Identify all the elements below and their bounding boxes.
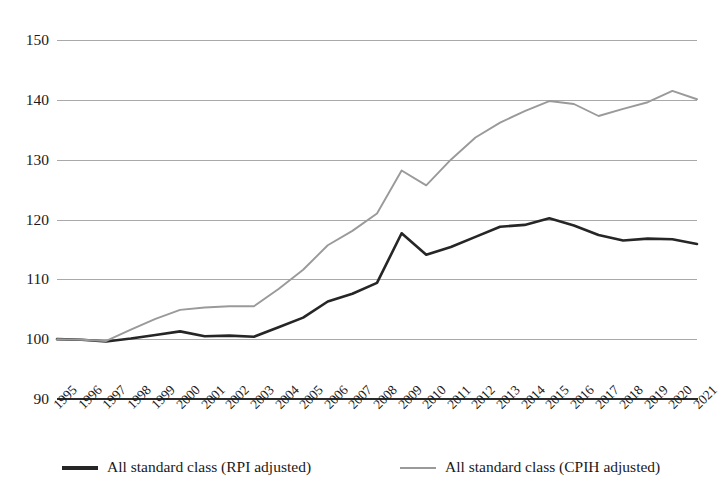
series-container xyxy=(0,0,721,491)
legend-label-cpih: All standard class (CPIH adjusted) xyxy=(445,458,660,475)
legend-item-rpi[interactable]: All standard class (RPI adjusted) xyxy=(62,458,311,475)
legend-label-rpi: All standard class (RPI adjusted) xyxy=(107,458,311,475)
series-line-rpi xyxy=(57,218,697,341)
line-chart: 90100110120130140150 1995199619971998199… xyxy=(0,0,721,491)
legend-swatch-rpi-icon xyxy=(62,466,98,470)
legend-swatch-cpih-icon xyxy=(400,467,436,469)
legend-item-cpih[interactable]: All standard class (CPIH adjusted) xyxy=(400,458,660,475)
series-line-cpih xyxy=(57,91,697,341)
chart-legend: All standard class (RPI adjusted) All st… xyxy=(0,458,721,488)
